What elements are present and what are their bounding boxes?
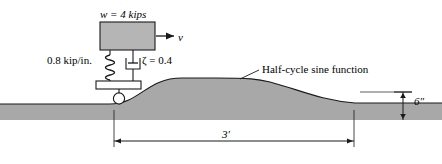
wheel-circle xyxy=(113,93,124,104)
bump-length-label: 3′ xyxy=(222,129,230,140)
figure-canvas xyxy=(0,0,442,164)
callout-leader-line xyxy=(240,70,259,79)
weight-label: w = 4 kips xyxy=(100,9,146,20)
damping-ratio-label: ζ = 0.4 xyxy=(142,55,172,66)
bump-callout-label: Half-cycle sine function xyxy=(262,64,368,75)
bump-height-label: 6″ xyxy=(414,96,424,107)
ground-profile xyxy=(0,78,442,120)
engineering-figure: w = 4 kips v 0.8 kip/in. ζ = 0.4 Half-cy… xyxy=(0,0,442,164)
mass-block xyxy=(100,22,155,50)
velocity-label: v xyxy=(178,32,183,43)
stiffness-label: 0.8 kip/in. xyxy=(47,55,92,66)
height-dimension-arrow-top xyxy=(400,93,406,98)
length-dimension-arrow-right xyxy=(347,138,353,143)
coil-spring xyxy=(106,55,115,80)
velocity-arrow-head xyxy=(166,33,174,40)
length-dimension-arrow-left xyxy=(115,138,121,143)
base-plate xyxy=(96,81,141,89)
